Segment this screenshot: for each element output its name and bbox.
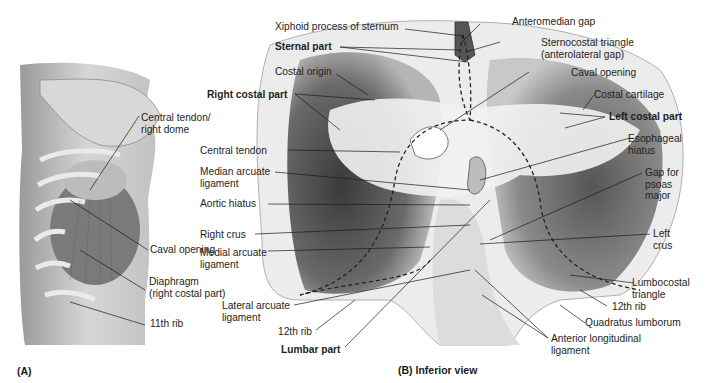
label-left-crus: Left crus	[653, 228, 672, 251]
label-right-crus: Right crus	[200, 229, 246, 241]
label-quadratus-lumborum: Quadratus lumborum	[585, 317, 681, 329]
label-aortic-hiatus: Aortic hiatus	[200, 198, 256, 210]
caption-panel-a: (A)	[17, 365, 32, 377]
label-anterior-longitudinal-ligament: Anterior longitudinal ligament	[551, 333, 641, 356]
label-costal-cartilage: Costal cartilage	[594, 89, 664, 101]
label-lateral-arcuate-ligament: Lateral arcuate ligament	[222, 300, 290, 323]
label-xiphoid-process: Xiphoid process of sternum	[275, 21, 398, 33]
label-esophageal-hiatus: Esophageal hiatus	[628, 133, 682, 156]
label-caval-opening-b: Caval opening	[571, 67, 636, 79]
label-gap-psoas-major: Gap for psoas major	[645, 167, 679, 202]
label-anteromedian-gap: Anteromedian gap	[512, 16, 595, 28]
label-lumbocostal-triangle: Lumbocostal triangle	[632, 277, 690, 300]
label-sternocostal-triangle: Sternocostal triangle (anterolateral gap…	[541, 37, 634, 60]
label-central-tendon: Central tendon	[200, 145, 267, 157]
label-medial-arcuate-ligament: Medial arcuate ligament	[200, 247, 267, 270]
label-12th-rib-left: 12th rib	[278, 326, 312, 338]
caption-panel-b: (B) Inferior view	[398, 364, 477, 376]
label-lumbar-part: Lumbar part	[281, 344, 340, 356]
label-12th-rib-right: 12th rib	[612, 301, 646, 313]
label-median-arcuate-ligament: Median arcuate ligament	[200, 166, 270, 189]
label-diaphragm-right-costal: Diaphragm (right costal part)	[149, 276, 225, 299]
label-costal-origin: Costal origin	[275, 66, 332, 78]
label-central-tendon-right-dome: Central tendon/ right dome	[141, 112, 211, 135]
torso-lateral-view	[19, 63, 160, 345]
label-11th-rib: 11th rib	[150, 318, 183, 330]
label-right-costal-part: Right costal part	[207, 89, 287, 101]
label-sternal-part: Sternal part	[275, 41, 332, 53]
label-left-costal-part: Left costal part	[609, 111, 682, 123]
